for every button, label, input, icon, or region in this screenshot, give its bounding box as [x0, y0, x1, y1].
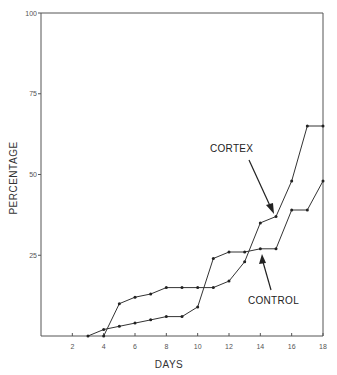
y-tick-label: 25	[29, 252, 37, 259]
x-tick-label: 14	[256, 343, 264, 350]
control-arrow-icon	[263, 262, 271, 290]
control-line	[88, 181, 323, 336]
cortex-arrowhead-icon	[266, 203, 274, 214]
y-tick-label: 100	[25, 10, 37, 17]
cortex-point	[118, 302, 121, 305]
control-point	[102, 328, 105, 331]
line-chart: 255075100 24681012141618 PERCENTAGE DAYS…	[0, 0, 337, 375]
control-point	[322, 179, 325, 182]
y-axis-label: PERCENTAGE	[8, 141, 19, 214]
x-tick-label: 18	[319, 343, 327, 350]
cortex-point	[149, 293, 152, 296]
control-point	[196, 305, 199, 308]
y-tick-label: 75	[29, 90, 37, 97]
x-tick-label: 6	[133, 343, 137, 350]
control-point	[181, 315, 184, 318]
control-point	[243, 251, 246, 254]
cortex-point	[181, 286, 184, 289]
control-point	[275, 247, 278, 250]
x-tick-label: 16	[288, 343, 296, 350]
control-point	[212, 257, 215, 260]
cortex-point	[165, 286, 168, 289]
cortex-arrow-icon	[249, 160, 271, 208]
cortex-label: CORTEX	[210, 143, 253, 154]
cortex-point	[196, 286, 199, 289]
cortex-point	[275, 215, 278, 218]
control-point	[118, 325, 121, 328]
cortex-point	[306, 125, 309, 128]
cortex-point	[212, 286, 215, 289]
cortex-point	[243, 260, 246, 263]
cortex-point	[228, 280, 231, 283]
x-tick-label: 8	[164, 343, 168, 350]
x-tick-label: 10	[194, 343, 202, 350]
cortex-annotation: CORTEX	[210, 143, 274, 214]
control-point	[290, 209, 293, 212]
control-point	[228, 251, 231, 254]
cortex-point	[290, 179, 293, 182]
x-tick-label: 2	[70, 343, 74, 350]
control-point	[149, 318, 152, 321]
control-arrowhead-icon	[259, 254, 266, 264]
x-axis-label: DAYS	[155, 359, 184, 370]
y-ticks: 255075100	[25, 10, 41, 259]
control-annotation: CONTROL	[248, 254, 299, 306]
cortex-point	[322, 125, 325, 128]
control-point	[87, 335, 90, 338]
control-point	[165, 315, 168, 318]
x-tick-label: 12	[225, 343, 233, 350]
control-point	[134, 322, 137, 325]
control-point	[306, 209, 309, 212]
control-point	[259, 247, 262, 250]
cortex-point	[134, 296, 137, 299]
y-tick-label: 50	[29, 171, 37, 178]
control-label: CONTROL	[248, 295, 299, 306]
cortex-point	[259, 221, 262, 224]
x-tick-label: 4	[102, 343, 106, 350]
cortex-point	[102, 335, 105, 338]
